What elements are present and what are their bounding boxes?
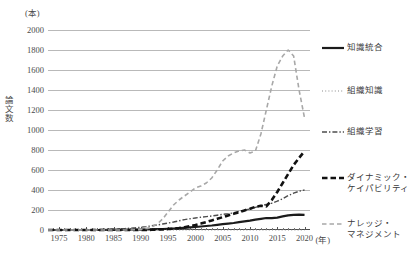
legend-item[interactable]: ダイナミック・ ケイパビリティ — [322, 172, 410, 194]
series-line — [48, 190, 305, 230]
y-axis-tick-label: 2000 — [10, 25, 44, 35]
legend-item[interactable]: 組織学習 — [322, 126, 383, 138]
plot-area: 0200400600800100012001400160018002000 19… — [48, 30, 310, 230]
legend-label: 知識統合 — [347, 42, 383, 53]
x-axis-tick-label: 2005 — [214, 233, 231, 243]
legend-label: 組織知識 — [347, 85, 383, 96]
legend-swatch-icon — [322, 85, 344, 97]
x-axis-tick-label: 2010 — [241, 233, 258, 243]
x-axis-tick-label: 2020 — [296, 233, 313, 243]
x-axis-tick-label: 1990 — [132, 233, 149, 243]
y-axis-tick-label: 1800 — [10, 45, 44, 55]
y-axis-unit-label: (本) — [25, 6, 40, 18]
series-lines — [48, 30, 310, 230]
x-axis-tick-label: 1980 — [78, 233, 95, 243]
y-axis-tick-label: 1400 — [10, 85, 44, 95]
legend-swatch-icon — [322, 42, 344, 54]
y-axis-tick-label: 1200 — [10, 105, 44, 115]
legend-item[interactable]: ナレッジ・ マネジメント — [322, 218, 401, 240]
chart-figure: (本) 論文数 02004006008001000120014001600180… — [0, 0, 416, 269]
y-axis-tick-label: 400 — [10, 185, 44, 195]
legend-label: ナレッジ・ マネジメント — [347, 218, 401, 240]
x-axis-tick-label: 2000 — [187, 233, 204, 243]
x-axis-tick-label: 1985 — [105, 233, 122, 243]
x-axis-tick-label: 2015 — [269, 233, 286, 243]
legend-label: ダイナミック・ ケイパビリティ — [347, 172, 410, 194]
y-axis-tick-label: 600 — [10, 165, 44, 175]
y-axis-tick-label: 800 — [10, 145, 44, 155]
legend-item[interactable]: 知識統合 — [322, 42, 383, 54]
y-axis-tick-label: 1000 — [10, 125, 44, 135]
legend-swatch-icon — [322, 218, 344, 230]
y-axis-tick-label: 1600 — [10, 65, 44, 75]
y-axis-tick-label: 0 — [10, 225, 44, 235]
legend-swatch-icon — [322, 126, 344, 138]
legend-swatch-icon — [322, 172, 344, 184]
legend-item[interactable]: 組織知識 — [322, 85, 383, 97]
x-axis-tick-label: 1975 — [50, 233, 67, 243]
y-axis-tick-label: 200 — [10, 205, 44, 215]
x-axis-tick-label: 1995 — [160, 233, 177, 243]
series-line — [48, 50, 305, 230]
legend-label: 組織学習 — [347, 126, 383, 137]
